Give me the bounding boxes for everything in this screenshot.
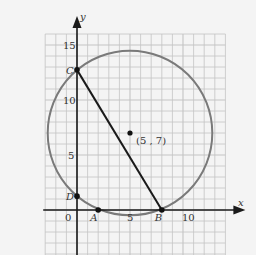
point-c [74, 67, 80, 73]
point-label-b: B [154, 212, 162, 223]
y-tick-label: 5 [68, 150, 74, 161]
point-label-c: C [66, 65, 74, 76]
point-label-a: A [89, 212, 97, 223]
coordinate-diagram: xy051051015ABCD(5 , 7) [0, 0, 256, 255]
circle-center-label: (5 , 7) [136, 135, 166, 146]
origin-label: 0 [65, 212, 71, 223]
y-tick-label: 15 [63, 40, 76, 51]
circle-center-point [127, 130, 132, 135]
x-tick-label: 5 [127, 212, 133, 223]
y-tick-label: 10 [63, 95, 76, 106]
point-label-d: D [65, 191, 74, 202]
point-d [74, 193, 80, 199]
x-tick-label: 10 [182, 212, 195, 223]
y-axis-label: y [79, 11, 86, 22]
x-axis-label: x [238, 197, 244, 208]
plot-canvas: xy051051015ABCD(5 , 7) [0, 0, 256, 255]
